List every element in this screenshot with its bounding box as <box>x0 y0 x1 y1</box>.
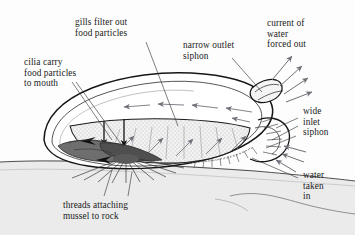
label-water-taken-in: water taken in <box>303 170 324 202</box>
label-wide-inlet-siphon: wide inlet siphon <box>303 106 328 138</box>
label-gills-filter: gills filter out food particles <box>75 17 127 38</box>
rock-substrate <box>0 160 355 235</box>
leader-inlet-siphon-b <box>272 126 298 140</box>
label-current-forced-out: current of water forced out <box>267 18 306 50</box>
label-threads-attaching: threads attaching mussel to rock <box>63 200 128 221</box>
mussel-anatomy-figure: gills filter out food particles cilia ca… <box>0 0 355 235</box>
leader-inlet-siphon-c <box>266 136 296 148</box>
label-narrow-outlet-siphon: narrow outlet siphon <box>183 40 234 61</box>
label-cilia-carry: cilia carry food particles to mouth <box>24 57 76 89</box>
inhalant-current-arrows <box>276 146 306 172</box>
outlet-siphon <box>250 79 283 102</box>
